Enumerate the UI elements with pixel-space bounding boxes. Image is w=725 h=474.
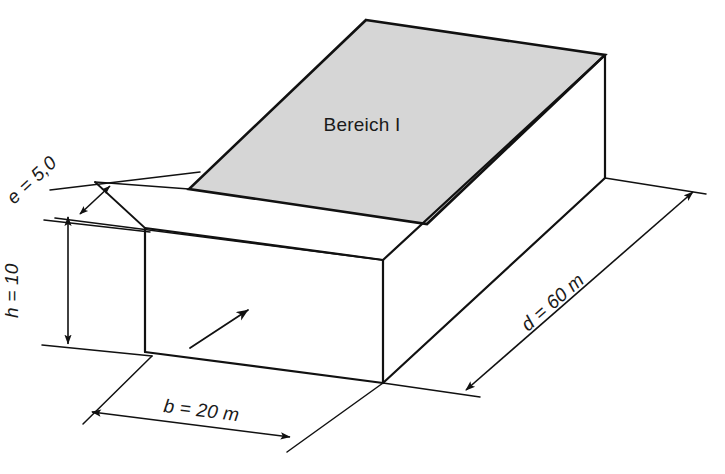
extension-line-h-bottom [42, 345, 152, 356]
box-figure: Bereich I e = 5,0 h = 10 b = 20 m d = 60… [0, 0, 725, 474]
extension-line-d-bottom [383, 383, 480, 397]
dimension-label-h: h = 10 [1, 263, 22, 318]
extension-line-b-left [83, 356, 152, 424]
wind-direction-arrow [190, 310, 248, 348]
dimension-label-e: e = 5,0 [2, 151, 60, 207]
left-slab-edge [95, 182, 145, 228]
technical-diagram: Bereich I e = 5,0 h = 10 b = 20 m d = 60… [0, 0, 725, 474]
extension-line-d-top [605, 178, 706, 194]
area-label-bereich-I: Bereich I [324, 114, 401, 135]
dimension-label-b: b = 20 m [163, 395, 241, 425]
front-bottom-edge [145, 352, 383, 383]
front-top-edge [145, 228, 383, 260]
extension-line-b-right [287, 383, 383, 452]
dimension-label-d: d = 60 m [517, 269, 588, 335]
extension-line-e-bottom [44, 220, 150, 232]
dimension-line-e [80, 186, 110, 214]
